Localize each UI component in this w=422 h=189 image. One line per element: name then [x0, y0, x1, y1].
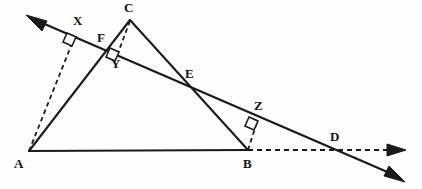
point-label-A: A [14, 157, 23, 170]
point-label-E: E [185, 67, 194, 80]
point-label-Y: Y [111, 57, 120, 70]
arrow-head-upper-left [26, 15, 47, 31]
side-CB [130, 20, 248, 150]
geometry-canvas [0, 0, 422, 189]
side-AB [29, 150, 248, 151]
point-label-F: F [97, 31, 105, 44]
perpendicular-AX [29, 36, 75, 151]
point-label-B: B [243, 157, 252, 170]
point-label-Z: Z [254, 99, 263, 112]
arrow-head-lower-right [384, 166, 405, 182]
perpendicular-CY [118, 21, 130, 53]
point-label-X: X [73, 14, 82, 27]
geometry-figure: A B C D E F X Y Z [0, 0, 422, 189]
point-label-C: C [124, 1, 133, 14]
point-label-D: D [330, 130, 339, 143]
transversal-line [33, 19, 399, 177]
right-angle-mark-Z [245, 117, 258, 130]
right-angle-mark-X [63, 33, 76, 46]
arrow-head-base-right [387, 144, 406, 156]
